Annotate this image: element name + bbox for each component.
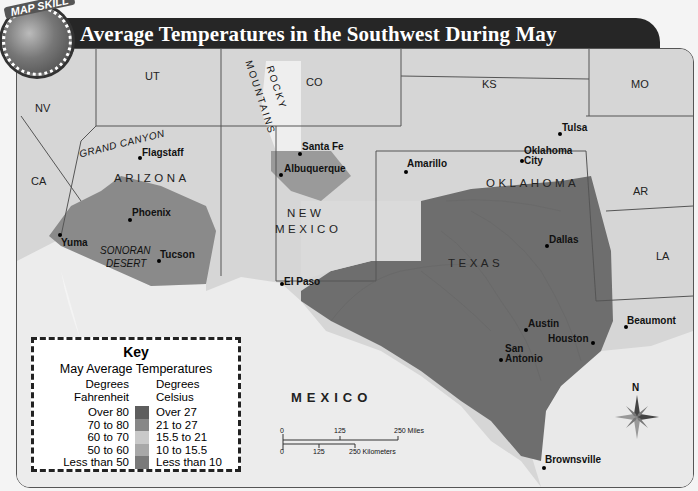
key-row-f: 50 to 60 — [40, 444, 129, 457]
key-swatch-less-50 — [135, 456, 149, 469]
city-label-flagstaff: Flagstaff — [142, 147, 184, 158]
city-label-yuma: Yuma — [61, 237, 88, 248]
city-label-beaumont: Beaumont — [627, 315, 676, 326]
city-label-santa-fe: Santa Fe — [302, 141, 344, 152]
compass-north-label: N — [632, 382, 639, 393]
city-label-san-antonio-2: Antonio — [505, 353, 543, 364]
key-row-f: Less than 50 — [40, 456, 129, 469]
city-label-austin: Austin — [528, 318, 559, 329]
feature-label-sonoran: SONORAN — [100, 245, 151, 256]
city-dot — [542, 466, 546, 470]
key-row-c: 10 to 15.5 — [156, 444, 236, 457]
key-swatch-over-80 — [135, 406, 149, 419]
key-row-c: Over 27 — [156, 406, 236, 419]
scale-km-end: 250 Kilometers — [349, 448, 396, 455]
city-label-houston: Houston — [548, 333, 589, 344]
city-label-albuquerque: Albuquerque — [284, 163, 346, 174]
state-label-texas: TEXAS — [448, 257, 503, 269]
key-swatch-50-60 — [135, 444, 149, 457]
city-dot — [298, 152, 302, 156]
city-dot — [279, 173, 283, 177]
state-label-new: NEW — [287, 207, 324, 219]
city-label-tucson: Tucson — [160, 249, 195, 260]
state-label-ut: UT — [145, 70, 160, 82]
key-swatch-60-70 — [135, 431, 149, 444]
state-label-la: LA — [656, 250, 669, 262]
city-label-oklahoma-city-2: City — [524, 155, 543, 166]
state-label-oklahoma: OKLAHOMA — [486, 177, 579, 189]
city-label-brownsville: Brownsville — [545, 454, 601, 465]
state-label-co: CO — [306, 76, 323, 88]
key-title: Key — [34, 344, 238, 360]
scale-km-zero: 0 — [280, 448, 284, 455]
key-fahrenheit-header: DegreesFahrenheit — [40, 378, 129, 403]
key-row-f: Over 80 — [40, 406, 129, 419]
key-row-c: 21 to 27 — [156, 419, 236, 432]
state-label-new-mexico: MEXICO — [275, 223, 341, 235]
city-dot — [499, 358, 503, 362]
country-label-mexico: MEXICO — [291, 390, 372, 405]
city-label-phoenix: Phoenix — [132, 207, 171, 218]
city-label-amarillo: Amarillo — [407, 158, 447, 169]
map-key: Key May Average Temperatures DegreesFahr… — [31, 337, 241, 472]
map-title: Average Temperatures in the Southwest Du… — [80, 22, 557, 47]
key-row-c: Less than 10 — [156, 456, 236, 469]
city-label-tulsa: Tulsa — [562, 122, 587, 133]
state-label-ar: AR — [633, 185, 648, 197]
city-dot — [128, 218, 132, 222]
key-subtitle: May Average Temperatures — [34, 362, 238, 376]
key-swatch-70-80 — [135, 419, 149, 432]
state-label-ks: KS — [482, 78, 497, 90]
state-label-ca: CA — [31, 175, 46, 187]
feature-label-desert: DESERT — [106, 258, 146, 269]
state-label-mo: MO — [631, 78, 649, 90]
scale-miles-zero: 0 — [280, 427, 284, 434]
city-label-el-paso: El Paso — [284, 276, 320, 287]
key-celsius-header: DegreesCelsius — [156, 378, 236, 403]
state-label-arizona: ARIZONA — [114, 172, 190, 184]
state-label-nv: NV — [35, 102, 50, 114]
city-label-dallas: Dallas — [549, 234, 578, 245]
key-row-c: 15.5 to 21 — [156, 431, 236, 444]
scale-km-mid: 125 — [313, 448, 325, 455]
scale-miles-end: 250 Miles — [394, 427, 424, 434]
city-dot — [404, 170, 408, 174]
key-row-f: 60 to 70 — [40, 431, 129, 444]
city-dot — [591, 341, 595, 345]
scale-miles-mid: 125 — [334, 427, 346, 434]
key-row-f: 70 to 80 — [40, 419, 129, 432]
